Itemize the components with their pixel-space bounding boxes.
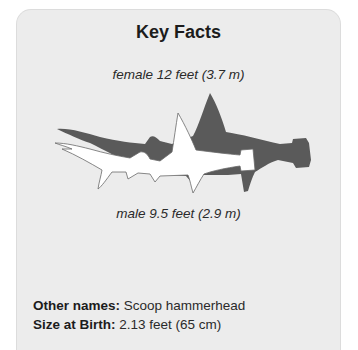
fact-value: 2.13 feet (65 cm) <box>119 317 221 332</box>
fact-other-names: Other names: Scoop hammerhead <box>33 296 245 315</box>
fact-label: Size at Birth: <box>33 317 116 332</box>
fact-size-at-birth: Size at Birth: 2.13 feet (65 cm) <box>33 315 245 334</box>
card-title: Key Facts <box>17 22 340 43</box>
fact-label: Other names: <box>33 298 120 313</box>
male-size-caption: male 9.5 feet (2.9 m) <box>17 206 340 221</box>
female-size-caption: female 12 feet (3.7 m) <box>17 67 340 82</box>
facts-list: Other names: Scoop hammerhead Size at Bi… <box>33 296 245 334</box>
fact-value: Scoop hammerhead <box>124 298 246 313</box>
